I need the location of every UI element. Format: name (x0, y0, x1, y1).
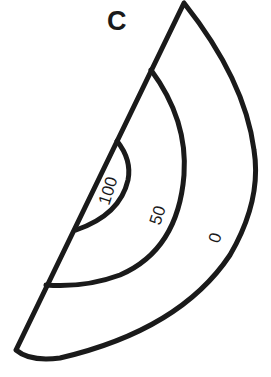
middle-arc (46, 70, 184, 286)
sector-diagram: C 100 50 0 (0, 0, 271, 377)
outer-boundary (16, 3, 256, 359)
zone-label-50: 50 (146, 203, 170, 227)
diagram-title-label: C (107, 6, 127, 36)
zone-label-0: 0 (205, 230, 226, 245)
